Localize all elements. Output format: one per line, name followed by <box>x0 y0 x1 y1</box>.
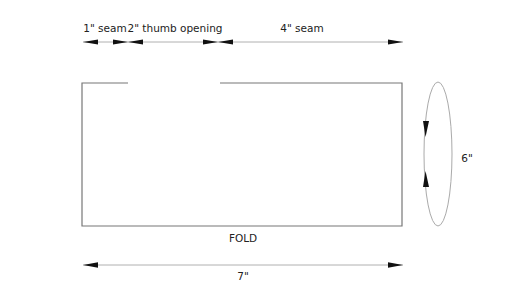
background <box>0 0 521 306</box>
label-1in-seam: 1" seam <box>83 22 126 34</box>
height-label: 6" <box>461 152 473 164</box>
label-thumb-opening: 2" thumb opening <box>128 22 223 34</box>
pattern-diagram: 1" seam 2" thumb opening 4" seam FOLD 7"… <box>0 0 521 306</box>
label-4in-seam: 4" seam <box>280 22 323 34</box>
fold-label: FOLD <box>229 232 257 244</box>
width-label: 7" <box>237 270 249 282</box>
